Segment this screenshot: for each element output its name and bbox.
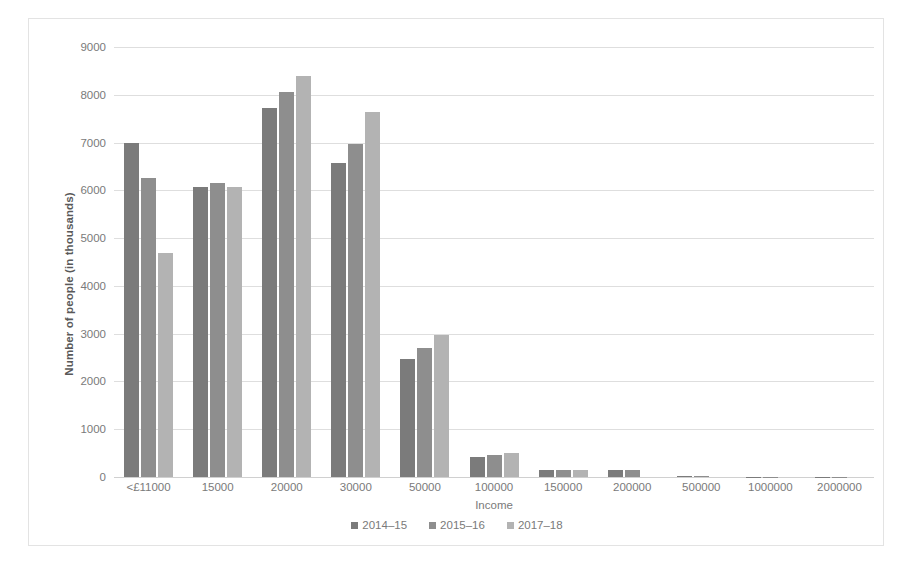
x-axis-tick-label: 500000 xyxy=(667,481,736,499)
y-axis-tick-label: 7000 xyxy=(80,137,106,149)
gridline: 0 xyxy=(114,477,874,478)
bar-group xyxy=(459,47,528,477)
y-axis-tick-label: 4000 xyxy=(80,280,106,292)
bar[interactable] xyxy=(124,143,139,477)
bar-group xyxy=(321,47,390,477)
y-axis-tick-label: 8000 xyxy=(80,89,106,101)
bar[interactable] xyxy=(573,470,588,477)
bar[interactable] xyxy=(417,348,432,477)
x-axis-tick-labels: <£11000150002000030000500001000001500002… xyxy=(114,481,874,499)
bar[interactable] xyxy=(193,187,208,477)
bar-group xyxy=(736,47,805,477)
bar[interactable] xyxy=(348,144,363,477)
x-axis-tick-label: 15000 xyxy=(183,481,252,499)
bar-group xyxy=(805,47,874,477)
legend-swatch-icon xyxy=(429,522,436,529)
bar-series-layer xyxy=(114,47,874,477)
bar[interactable] xyxy=(539,470,554,477)
bar[interactable] xyxy=(279,92,294,477)
bar[interactable] xyxy=(210,183,225,477)
y-axis-title: Number of people (in thousands) xyxy=(39,0,59,19)
bar[interactable] xyxy=(296,76,311,477)
bar[interactable] xyxy=(434,335,449,477)
y-axis-tick-label: 3000 xyxy=(80,328,106,340)
legend-label: 2017–18 xyxy=(518,519,563,531)
bar[interactable] xyxy=(487,455,502,477)
y-axis-title-text: Number of people (in thousands) xyxy=(63,134,75,434)
bar[interactable] xyxy=(556,470,571,477)
bar[interactable] xyxy=(470,457,485,477)
bar-group xyxy=(183,47,252,477)
legend-label: 2015–16 xyxy=(440,519,485,531)
bar[interactable] xyxy=(504,453,519,477)
x-axis-title: Income xyxy=(114,499,874,511)
bar[interactable] xyxy=(331,163,346,477)
bar[interactable] xyxy=(262,108,277,477)
bar[interactable] xyxy=(608,470,623,477)
legend-item[interactable]: 2014–15 xyxy=(351,519,407,531)
bar-group xyxy=(114,47,183,477)
chart-legend: 2014–152015–162017–18 xyxy=(29,519,885,531)
x-axis-tick-label: 50000 xyxy=(390,481,459,499)
bar[interactable] xyxy=(365,112,380,477)
y-axis-tick-label: 6000 xyxy=(80,184,106,196)
x-axis-tick-label: 100000 xyxy=(459,481,528,499)
legend-item[interactable]: 2015–16 xyxy=(429,519,485,531)
y-axis-tick-label: 9000 xyxy=(80,41,106,53)
legend-item[interactable]: 2017–18 xyxy=(507,519,563,531)
legend-label: 2014–15 xyxy=(362,519,407,531)
bar[interactable] xyxy=(227,187,242,477)
x-axis-tick-label: 20000 xyxy=(252,481,321,499)
bar[interactable] xyxy=(141,178,156,477)
bar-group xyxy=(390,47,459,477)
x-axis-tick-label: 1000000 xyxy=(736,481,805,499)
bar[interactable] xyxy=(400,359,415,477)
y-axis-tick-label: 2000 xyxy=(80,375,106,387)
x-axis-tick-label: 2000000 xyxy=(805,481,874,499)
y-axis-tick-label: 1000 xyxy=(80,423,106,435)
bar[interactable] xyxy=(158,253,173,477)
bar-group xyxy=(252,47,321,477)
plot-area: 0100020003000400050006000700080009000 xyxy=(114,47,874,477)
x-axis-tick-label: 200000 xyxy=(598,481,667,499)
x-axis-tick-label: 30000 xyxy=(321,481,390,499)
y-axis-tick-label: 5000 xyxy=(80,232,106,244)
x-axis-tick-label: 150000 xyxy=(529,481,598,499)
chart-frame: Number of people (in thousands) 01000200… xyxy=(28,18,884,546)
bar-group xyxy=(529,47,598,477)
y-axis-tick-label: 0 xyxy=(100,471,106,483)
legend-swatch-icon xyxy=(351,522,358,529)
bar-group xyxy=(598,47,667,477)
bar[interactable] xyxy=(625,470,640,477)
bar[interactable] xyxy=(694,476,709,477)
legend-swatch-icon xyxy=(507,522,514,529)
bar-group xyxy=(667,47,736,477)
bar[interactable] xyxy=(677,476,692,477)
x-axis-tick-label: <£11000 xyxy=(114,481,183,499)
